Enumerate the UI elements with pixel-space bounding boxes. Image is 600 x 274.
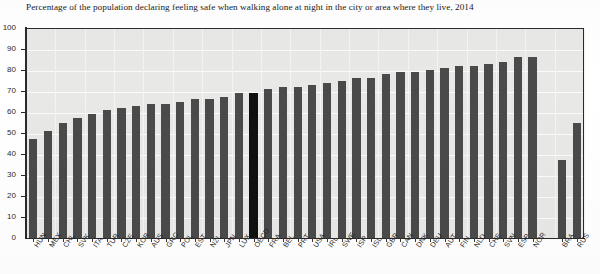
bar-esp [514, 57, 522, 238]
bar-kor [132, 106, 140, 238]
bar-deu [426, 70, 434, 238]
bar-tur [103, 110, 111, 238]
bar-nor [528, 57, 536, 238]
y-tick-label-30: 30 [0, 170, 16, 179]
chart-screenshot: Percentage of the population declaring f… [0, 0, 600, 274]
vertical-gridline [584, 29, 585, 238]
bar-fra [264, 89, 272, 238]
bar-jpn [220, 97, 228, 238]
y-tick-label-70: 70 [0, 86, 16, 95]
bar-nzl [205, 99, 213, 238]
y-tick-label-90: 90 [0, 44, 16, 53]
bar-dnk [411, 72, 419, 238]
bar-isl [367, 78, 375, 238]
y-tick-label-40: 40 [0, 149, 16, 158]
bar-est [191, 99, 199, 238]
bar-irl [323, 83, 331, 238]
y-tick-label-0: 0 [0, 233, 16, 242]
y-tick-label-80: 80 [0, 65, 16, 74]
bar-che [484, 64, 492, 238]
chart-title: Percentage of the population declaring f… [26, 2, 586, 12]
bar-bra [558, 160, 566, 238]
bar-nld [470, 66, 478, 238]
bar-chl [59, 123, 67, 239]
bar-fin [455, 66, 463, 238]
bar-isr [352, 78, 360, 238]
bar-mex [44, 131, 52, 238]
bar-swe [338, 81, 346, 239]
bar-rus [573, 123, 581, 239]
bar-hun [29, 139, 37, 238]
bar-prt [294, 87, 302, 238]
y-tick-label-60: 60 [0, 107, 16, 116]
bar-aus [147, 104, 155, 238]
bar-can [396, 72, 404, 238]
bar-svn [499, 62, 507, 238]
y-tick-label-100: 100 [0, 23, 16, 32]
bar-cze [117, 108, 125, 238]
bar-oecd [249, 93, 257, 238]
bar-svk [73, 118, 81, 238]
bar-series [26, 28, 584, 238]
bar-bel [279, 87, 287, 238]
y-tick-label-50: 50 [0, 128, 16, 137]
bar-grc [161, 104, 169, 238]
bar-lux [235, 93, 243, 238]
bar-aut [440, 68, 448, 238]
bar-pol [176, 102, 184, 239]
bar-ita [88, 114, 96, 238]
bar-usa [308, 85, 316, 238]
y-tick-label-10: 10 [0, 212, 16, 221]
y-tick-label-20: 20 [0, 191, 16, 200]
bar-gbr [382, 74, 390, 238]
